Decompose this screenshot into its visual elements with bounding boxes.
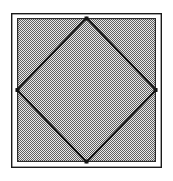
diamond-vertex-top bbox=[85, 17, 89, 21]
diamond-vertex-bottom bbox=[85, 160, 89, 164]
geometric-figure bbox=[0, 0, 173, 181]
figure-container bbox=[0, 0, 173, 181]
shaded-inner-square bbox=[17, 18, 156, 162]
diamond-vertex-right bbox=[154, 88, 158, 92]
diamond-vertex-left bbox=[16, 88, 20, 92]
